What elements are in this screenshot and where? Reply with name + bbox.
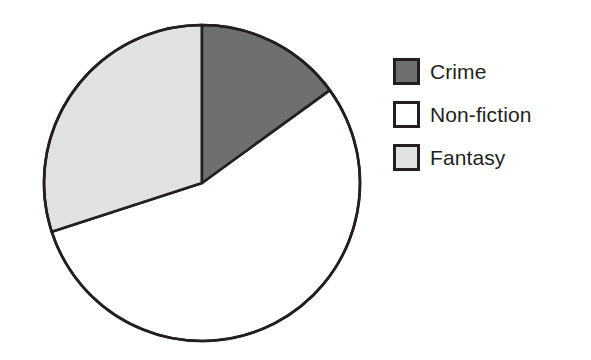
legend-swatch-fantasy xyxy=(393,144,420,171)
legend-item-fantasy[interactable]: Fantasy xyxy=(393,136,583,179)
legend-swatch-crime xyxy=(393,58,420,85)
pie-chart-area xyxy=(0,0,380,360)
legend-label-fantasy: Fantasy xyxy=(430,147,505,168)
legend-item-non-fiction[interactable]: Non-fiction xyxy=(393,93,583,136)
legend-label-crime: Crime xyxy=(430,61,487,82)
pie-chart-svg xyxy=(0,0,380,360)
legend-label-non-fiction: Non-fiction xyxy=(430,104,531,125)
legend: Crime Non-fiction Fantasy xyxy=(393,50,583,179)
legend-item-crime[interactable]: Crime xyxy=(393,50,583,93)
legend-swatch-non-fiction xyxy=(393,101,420,128)
